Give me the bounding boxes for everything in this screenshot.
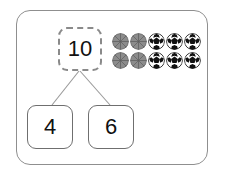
number-bond-total-box[interactable]: 10 [58, 27, 102, 71]
basketball-counter-icon [130, 52, 147, 69]
basketball-counter-icon [130, 33, 147, 50]
number-bond-part-left-value: 4 [44, 116, 56, 138]
basketball-counter-icon [112, 52, 129, 69]
soccer-ball-counter-icon [166, 52, 183, 69]
basketball-counter-icon [112, 33, 129, 50]
number-bond-total-value: 10 [68, 38, 92, 60]
counter-ball-grid [112, 33, 204, 69]
soccer-ball-counter-icon [148, 33, 165, 50]
number-bond-part-left-box[interactable]: 4 [27, 105, 73, 149]
soccer-ball-counter-icon [148, 52, 165, 69]
number-bond-part-right-box[interactable]: 6 [88, 105, 134, 149]
soccer-ball-counter-icon [184, 52, 201, 69]
soccer-ball-counter-icon [184, 33, 201, 50]
soccer-ball-counter-icon [166, 33, 183, 50]
worksheet-canvas: 10 4 6 [0, 0, 225, 177]
number-bond-part-right-value: 6 [105, 116, 117, 138]
